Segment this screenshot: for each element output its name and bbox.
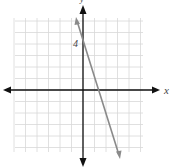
x-axis-label: x [163, 84, 169, 96]
y-axis-down-arrow-icon [80, 158, 87, 167]
plotted-line [75, 17, 122, 159]
line-bottom-arrow-icon [116, 151, 122, 160]
coordinate-plane: x y 4 [0, 0, 172, 168]
grid-lines [14, 18, 143, 152]
y-axis-up-arrow-icon [80, 5, 87, 14]
y-axis [80, 5, 87, 167]
x-axis [3, 87, 160, 94]
x-axis-right-arrow-icon [152, 87, 160, 94]
y-intercept-label: 4 [73, 38, 78, 49]
y-axis-label: y [79, 0, 84, 4]
x-axis-left-arrow-icon [3, 87, 11, 94]
